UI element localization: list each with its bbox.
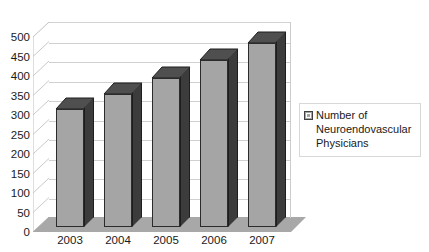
bar-2004[interactable] <box>104 83 132 227</box>
bar-side-face <box>228 49 238 227</box>
y-tick-label: 500 <box>11 32 30 44</box>
y-tick-label: 150 <box>11 169 30 181</box>
x-tick-label-2003: 2003 <box>46 235 94 247</box>
bar-front-face <box>56 109 84 227</box>
x-tick-label-2005: 2005 <box>142 235 190 247</box>
axis-side-wall <box>33 22 49 232</box>
bar-front-face <box>200 60 228 227</box>
y-tick-label: 100 <box>11 188 30 200</box>
bar-front-face <box>104 94 132 227</box>
y-tick-label: 400 <box>11 71 30 83</box>
legend-entry-label: Number of Neuroendovascular Physicians <box>316 109 416 150</box>
bar-front-face <box>152 78 180 227</box>
bar-side-face <box>84 98 94 227</box>
bar-2006[interactable] <box>200 49 228 227</box>
y-tick-label: 350 <box>11 91 30 103</box>
bar-side-face <box>276 32 286 227</box>
bar-2003[interactable] <box>56 98 84 227</box>
y-tick-label: 300 <box>11 110 30 122</box>
y-tick-label: 250 <box>11 130 30 142</box>
bar-side-face <box>132 83 142 227</box>
bar-2005[interactable] <box>152 67 180 227</box>
bar-side-face <box>180 67 190 227</box>
legend-swatch-icon <box>304 111 313 120</box>
x-tick-label-2004: 2004 <box>94 235 142 247</box>
plot-right-edge <box>290 22 291 218</box>
x-tick-label-2006: 2006 <box>190 235 238 247</box>
y-tick-label: 450 <box>11 52 30 64</box>
y-tick-label: 50 <box>17 208 30 220</box>
chart-legend[interactable]: Number of Neuroendovascular Physicians <box>299 103 421 157</box>
bar-chart: 500 450 400 350 300 250 200 150 100 50 0 <box>0 0 429 252</box>
bar-2007[interactable] <box>248 32 276 227</box>
x-tick-label-2007: 2007 <box>238 235 286 247</box>
y-axis-labels: 500 450 400 350 300 250 200 150 100 50 0 <box>0 0 30 252</box>
y-tick-label: 0 <box>24 227 30 239</box>
y-tick-label: 200 <box>11 149 30 161</box>
bar-front-face <box>248 43 276 227</box>
